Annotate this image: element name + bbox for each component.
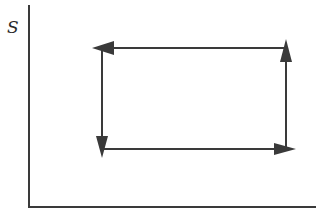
arrow-up-icon <box>280 39 292 62</box>
arrow-down-icon <box>96 136 108 158</box>
axes <box>28 5 316 207</box>
cycle <box>92 39 296 158</box>
cycle-diagram <box>0 0 316 219</box>
